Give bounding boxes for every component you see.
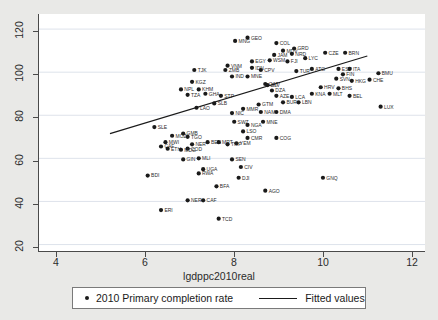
scatter-point[interactable] <box>192 68 196 72</box>
scatter-point[interactable] <box>350 79 354 83</box>
scatter-point[interactable] <box>296 100 300 104</box>
scatter-point[interactable] <box>237 176 241 180</box>
scatter-point[interactable] <box>250 59 254 63</box>
scatter-point-label: BFA <box>220 183 230 189</box>
scatter-point[interactable] <box>179 87 183 91</box>
scatter-point[interactable] <box>285 59 289 63</box>
scatter-point[interactable] <box>274 94 278 98</box>
scatter-point[interactable] <box>203 92 207 96</box>
scatter-point[interactable] <box>334 77 338 81</box>
scatter-point[interactable] <box>241 129 245 133</box>
scatter-point-label: TZA <box>191 92 201 98</box>
scatter-point-label: GIN <box>187 156 196 162</box>
scatter-point[interactable] <box>214 184 218 188</box>
scatter-point[interactable] <box>179 148 183 152</box>
scatter-point[interactable] <box>206 140 210 144</box>
plot-area: MNGGEOCOLGRDMDVCZEBRNEGYWSMJAMNRDIDNVNMZ… <box>38 14 425 252</box>
scatter-point[interactable] <box>303 56 307 60</box>
scatter-point[interactable] <box>230 74 234 78</box>
scatter-point[interactable] <box>259 110 263 114</box>
scatter-point[interactable] <box>294 69 298 73</box>
scatter-point-label: NAM <box>264 109 275 115</box>
scatter-point[interactable] <box>321 176 325 180</box>
scatter-point[interactable] <box>274 136 278 140</box>
scatter-point-label: BHS <box>342 85 353 91</box>
scatter-point[interactable] <box>245 36 249 40</box>
scatter-point[interactable] <box>328 92 332 96</box>
scatter-point[interactable] <box>197 171 201 175</box>
scatter-point[interactable] <box>223 68 227 72</box>
scatter-point[interactable] <box>230 157 234 161</box>
scatter-point-label: TCD <box>222 216 233 222</box>
scatter-point[interactable] <box>290 52 294 56</box>
scatter-point[interactable] <box>263 189 267 193</box>
scatter-point-label: TGO <box>191 134 202 140</box>
scatter-point-label: MDG <box>184 147 196 153</box>
scatter-point-label: IND <box>235 73 244 79</box>
scatter-point[interactable] <box>217 217 221 221</box>
scatter-point-label: COG <box>280 135 291 141</box>
legend-entry-scatter[interactable]: 2010 Primary completion rate <box>85 292 233 304</box>
scatter-point[interactable] <box>232 120 236 124</box>
scatter-point-label: KGZ <box>195 79 205 85</box>
scatter-point[interactable] <box>181 157 185 161</box>
scatter-point[interactable] <box>379 105 383 109</box>
scatter-point-label: MOZ <box>175 133 186 139</box>
scatter-point[interactable] <box>290 95 294 99</box>
legend-entry-fitted[interactable]: Fitted values <box>259 292 365 304</box>
scatter-point[interactable] <box>186 198 190 202</box>
scatter-point[interactable] <box>250 66 254 70</box>
scatter-point[interactable] <box>259 68 263 72</box>
scatter-point[interactable] <box>319 85 323 89</box>
scatter-point[interactable] <box>152 125 156 129</box>
scatter-point[interactable] <box>310 92 314 96</box>
scatter-point-label: NGA <box>251 122 262 128</box>
scatter-point[interactable] <box>190 80 194 84</box>
scatter-point[interactable] <box>323 51 327 55</box>
scatter-point[interactable] <box>274 110 278 114</box>
legend-marker-dot-icon <box>85 296 89 300</box>
x-tick-label: 8 <box>219 256 249 268</box>
scatter-point[interactable] <box>233 39 237 43</box>
y-tick-label: 60 <box>13 147 25 173</box>
scatter-point[interactable] <box>343 51 347 55</box>
scatter-point-label: MLI <box>202 155 210 161</box>
scatter-point-label: BUR <box>286 99 297 105</box>
scatter-point[interactable] <box>225 142 229 146</box>
scatter-point[interactable] <box>230 111 234 115</box>
scatter-point[interactable] <box>159 208 163 212</box>
scatter-point-label: DJI <box>242 175 249 181</box>
scatter-point-label: NIC <box>235 110 244 116</box>
scatter-point[interactable] <box>274 41 278 45</box>
scatter-point[interactable] <box>245 74 249 78</box>
scatter-point[interactable] <box>219 94 223 98</box>
scatter-point-label: RWA <box>202 170 214 176</box>
scatter-point[interactable] <box>310 67 314 71</box>
scatter-point-label: KNA <box>315 91 326 97</box>
scatter-point[interactable] <box>217 140 221 144</box>
scatter-point-label: MLT <box>333 91 343 97</box>
scatter-point[interactable] <box>239 165 243 169</box>
scatter-point[interactable] <box>376 71 380 75</box>
legend-label-scatter: 2010 Primary completion rate <box>96 292 233 304</box>
scatter-point[interactable] <box>347 94 351 98</box>
scatter-point[interactable] <box>201 198 205 202</box>
scatter-point[interactable] <box>166 147 170 151</box>
scatter-point[interactable] <box>336 86 340 90</box>
scatter-point[interactable] <box>170 134 174 138</box>
scatter-point[interactable] <box>272 53 276 57</box>
scatter-point[interactable] <box>261 120 265 124</box>
x-axis-title: lgdppc2010real <box>0 270 438 282</box>
scatter-point[interactable] <box>241 107 245 111</box>
scatter-point[interactable] <box>270 88 274 92</box>
scatter-point-label: GEO <box>251 35 262 41</box>
scatter-point[interactable] <box>367 78 371 82</box>
scatter-point[interactable] <box>281 100 285 104</box>
scatter-point[interactable] <box>146 173 150 177</box>
scatter-point[interactable] <box>336 67 340 71</box>
scatter-point[interactable] <box>197 156 201 160</box>
scatter-point[interactable] <box>159 144 163 148</box>
scatter-point-label: LSO <box>246 128 256 134</box>
scatter-point[interactable] <box>268 58 272 62</box>
scatter-point[interactable] <box>186 93 190 97</box>
